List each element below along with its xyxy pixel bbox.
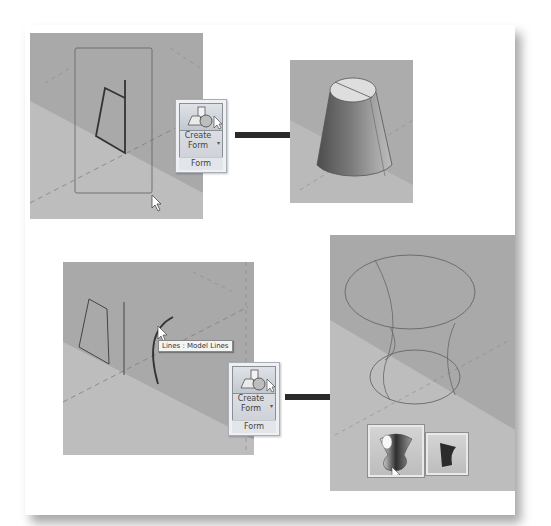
model-lines-tooltip: Lines : Model Lines: [158, 340, 233, 352]
surface-form-icon: [428, 435, 466, 473]
create-form-label: Create Form: [233, 394, 269, 414]
step2-create-form-button[interactable]: Create Form ▾: [232, 366, 276, 421]
surface-form-option[interactable]: [426, 433, 468, 475]
step1-form-ribbon-panel: Create Form ▾ Form: [175, 99, 227, 173]
step2-sketch-viewport[interactable]: Lines : Model Lines: [63, 262, 254, 455]
form-panel-label: Form: [232, 420, 276, 433]
solid-form-option[interactable]: [368, 425, 424, 477]
solid-form-icon: [370, 427, 422, 475]
create-form-icon: [233, 367, 275, 394]
create-form-label-line2: Form: [180, 141, 216, 151]
dropdown-caret-icon[interactable]: ▾: [270, 402, 273, 409]
truncated-cone-model: [290, 60, 413, 203]
create-form-icon: [180, 104, 222, 131]
step2-result-viewport[interactable]: [330, 235, 515, 491]
create-form-label: Create Form: [180, 131, 216, 151]
step1-result-viewport[interactable]: [290, 60, 413, 203]
step2-form-ribbon-panel: Create Form ▾ Form: [228, 362, 280, 436]
step1-create-form-button[interactable]: Create Form ▾: [179, 103, 223, 158]
create-form-label-line1: Create: [233, 394, 269, 404]
form-panel-label: Form: [179, 157, 223, 170]
create-form-label-line2: Form: [233, 404, 269, 414]
dropdown-caret-icon[interactable]: ▾: [217, 139, 220, 146]
create-form-label-line1: Create: [180, 131, 216, 141]
step2-sketch-drawing: [63, 262, 254, 455]
